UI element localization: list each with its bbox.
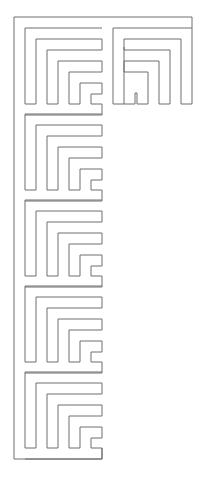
- maze-outline-svg: [0, 0, 204, 480]
- maze-path: [14, 17, 192, 459]
- maze-diagram: [0, 0, 204, 480]
